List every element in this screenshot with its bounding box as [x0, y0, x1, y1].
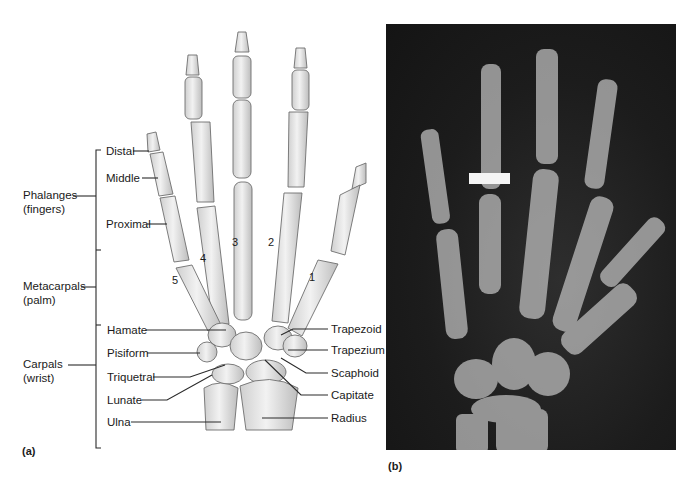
- radius-label: Radius: [331, 412, 367, 425]
- carpals-name: Carpals: [23, 357, 63, 371]
- xray-bones: [386, 24, 676, 450]
- digit-5-number: 5: [172, 274, 178, 286]
- distal-label: Distal: [106, 145, 135, 158]
- phalanges-label: Phalanges (fingers): [23, 188, 77, 216]
- panel-a-tag: (a): [22, 445, 35, 457]
- ulna-label: Ulna: [107, 416, 131, 429]
- carpals-sub: (wrist): [23, 371, 63, 385]
- xray-scale-bar: [469, 173, 510, 184]
- hamate-label: Hamate: [107, 324, 147, 337]
- digit-2-number: 2: [268, 236, 274, 248]
- carpals-label: Carpals (wrist): [23, 357, 63, 385]
- middle-label: Middle: [106, 172, 140, 185]
- metacarpals-label: Metacarpals (palm): [23, 279, 86, 307]
- panel-b-tag: (b): [388, 460, 402, 472]
- digit-4-number: 4: [200, 252, 206, 264]
- triquetral-label: Triquetral: [107, 371, 155, 384]
- phalanges-name: Phalanges: [23, 188, 77, 202]
- digit-3-number: 3: [232, 236, 238, 248]
- digit-1-number: 1: [309, 271, 315, 283]
- scaphoid-label: Scaphoid: [331, 367, 379, 380]
- hand-xray-image: [386, 24, 676, 450]
- trapezium-label: Trapezium: [331, 344, 385, 357]
- lunate-label: Lunate: [107, 394, 142, 407]
- metacarpals-name: Metacarpals: [23, 279, 86, 293]
- trapezoid-label: Trapezoid: [331, 323, 382, 336]
- capitate-label: Capitate: [331, 389, 374, 402]
- pisiform-label: Pisiform: [107, 347, 149, 360]
- proximal-label: Proximal: [106, 218, 151, 231]
- metacarpals-sub: (palm): [23, 293, 86, 307]
- phalanges-sub: (fingers): [23, 202, 77, 216]
